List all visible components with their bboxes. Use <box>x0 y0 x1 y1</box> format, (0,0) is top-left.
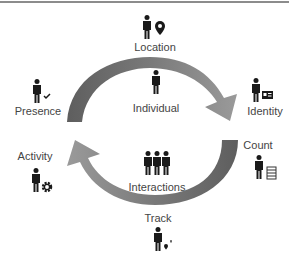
node-label-presence: Presence <box>15 105 61 117</box>
person-with-gear-icon <box>30 168 54 194</box>
node-label-location: Location <box>134 41 176 53</box>
node-label-activity: Activity <box>18 150 53 162</box>
person-with-path-pins-icon <box>152 227 174 253</box>
group-of-three-people-icon <box>143 151 171 175</box>
person-with-checkmark-icon <box>31 79 53 103</box>
person-with-abacus-icon <box>253 155 279 181</box>
center-label-interactions: Interactions <box>129 181 186 193</box>
node-label-track: Track <box>144 212 171 224</box>
node-label-identity: Identity <box>247 105 282 117</box>
person-with-id-card-icon <box>250 78 274 102</box>
node-label-count: Count <box>243 139 272 151</box>
person-icon <box>150 70 162 94</box>
cycle-arrows <box>0 0 289 264</box>
person-with-map-pin-icon <box>141 15 167 39</box>
center-label-individual: Individual <box>133 102 179 114</box>
